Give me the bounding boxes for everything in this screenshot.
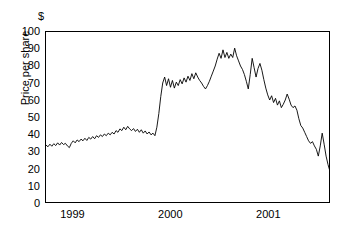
y-tick-label: 10 xyxy=(6,181,40,191)
plot-area xyxy=(45,31,330,203)
y-tick-label: 50 xyxy=(6,112,40,122)
y-tick-label: 70 xyxy=(6,78,40,88)
currency-symbol-label: $ xyxy=(26,10,44,22)
y-tick-label: 60 xyxy=(6,95,40,105)
x-tick-label: 2001 xyxy=(238,208,298,220)
stock-price-chart-figure: Price per share $ 1009080706050403020100… xyxy=(0,0,346,242)
x-tick-label: 1999 xyxy=(42,208,102,220)
y-tick-label: 20 xyxy=(6,164,40,174)
y-tick-label: 90 xyxy=(6,43,40,53)
price-line-series xyxy=(46,32,329,202)
y-tick-label: 100 xyxy=(6,26,40,36)
x-tick-label: 2000 xyxy=(140,208,200,220)
y-tick-label: 0 xyxy=(6,198,40,208)
y-tick-label: 40 xyxy=(6,129,40,139)
y-tick-label: 80 xyxy=(6,60,40,70)
y-tick-label: 30 xyxy=(6,146,40,156)
